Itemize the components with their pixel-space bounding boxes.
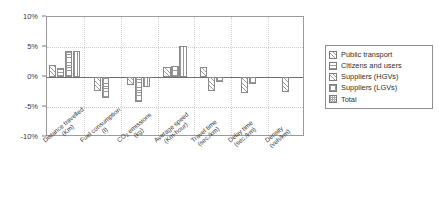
bar [163, 67, 170, 77]
gridline-vertical [231, 17, 232, 135]
bar [208, 77, 215, 91]
legend-item[interactable]: Suppliers (LGVs) [329, 83, 428, 94]
legend-item[interactable]: Public transport [329, 49, 428, 60]
bar [282, 77, 289, 92]
bar [127, 77, 134, 85]
y-tick-label: 10% [23, 12, 38, 21]
y-tick-label: 0% [27, 72, 38, 81]
gridline-vertical [268, 17, 269, 135]
bar [171, 66, 178, 77]
legend-item[interactable]: Citizens and users [329, 60, 428, 71]
bar [179, 46, 186, 77]
bar [249, 77, 256, 84]
y-axis: 10%5%0%-5%-10% [0, 0, 46, 152]
bar [241, 77, 248, 93]
bar [49, 65, 56, 77]
legend-item-label: Suppliers (HGVs) [341, 73, 399, 80]
gridline-vertical [158, 17, 159, 135]
gridline-vertical [194, 17, 195, 135]
legend-swatch-icon [329, 95, 337, 103]
gridline-horizontal [47, 107, 303, 108]
bar [200, 67, 207, 77]
x-axis-labels: Distance travelled(Km)Fuel consumption(l… [0, 137, 320, 198]
legend-item-label: Suppliers (LGVs) [341, 84, 397, 91]
legend-swatch-icon [329, 84, 337, 92]
bar [143, 77, 150, 87]
y-tick-label: -5% [25, 102, 38, 111]
legend-swatch-icon [329, 62, 337, 70]
bar [102, 77, 109, 98]
y-tick-label: 5% [27, 42, 38, 51]
legend-swatch-icon [329, 51, 337, 59]
bar [135, 77, 142, 102]
legend-item[interactable]: Suppliers (HGVs) [329, 71, 428, 82]
chart-legend: Public transportCitizens and usersSuppli… [325, 45, 433, 109]
legend-item-label: Public transport [341, 51, 392, 58]
chart-figure: 10%5%0%-5%-10% Distance travelled(Km)Fue… [0, 0, 439, 198]
bar [57, 68, 64, 77]
zero-baseline [47, 77, 303, 78]
bar [216, 77, 223, 82]
legend-item-label: Citizens and users [341, 62, 402, 69]
bar [94, 77, 101, 91]
bar [73, 51, 80, 77]
legend-item-label: Total [341, 96, 357, 103]
legend-item[interactable]: Total [329, 94, 428, 105]
bar [65, 51, 72, 77]
legend-swatch-icon [329, 73, 337, 81]
gridline-horizontal [47, 47, 303, 48]
